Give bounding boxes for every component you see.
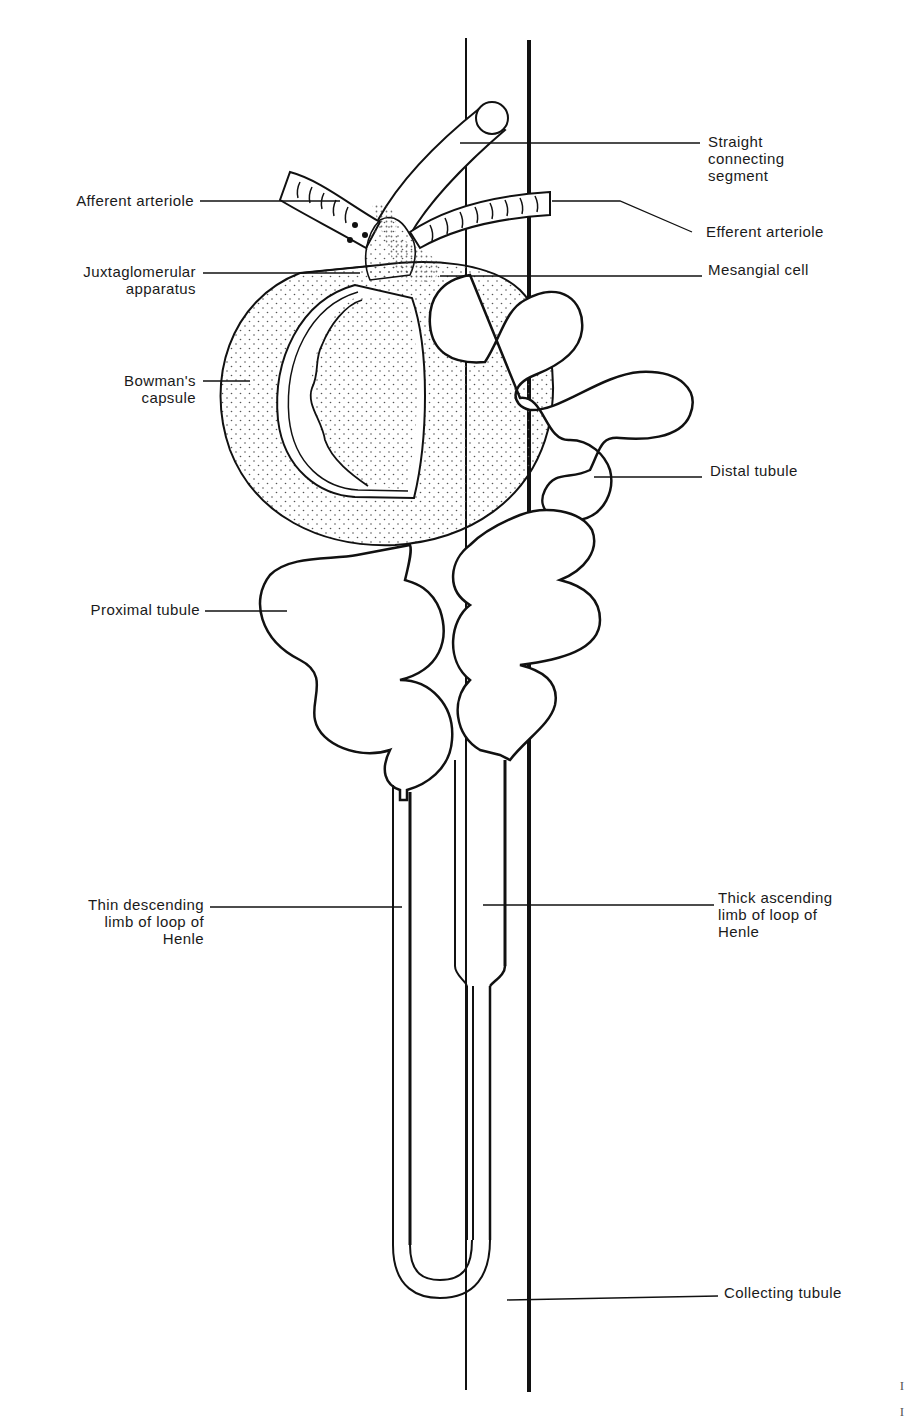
- label-thin-descending-limb: Thin descending limb of loop of Henle: [40, 896, 204, 947]
- label-afferent-arteriole: Afferent arteriole: [36, 192, 194, 209]
- page-edge-mark: I: [900, 1404, 904, 1420]
- label-efferent-arteriole: Efferent arteriole: [706, 223, 824, 240]
- page-edge-mark: I: [900, 1378, 904, 1394]
- nephron-diagram: [0, 0, 906, 1424]
- label-distal-tubule: Distal tubule: [710, 462, 798, 479]
- label-mesangial-cell: Mesangial cell: [708, 261, 809, 278]
- proximal-tubule: [260, 545, 452, 800]
- label-juxtaglomerular-apparatus: Juxtaglomerular apparatus: [20, 263, 196, 297]
- bowmans-capsule: [221, 262, 553, 545]
- label-straight-connecting-segment: Straight connecting segment: [708, 133, 785, 184]
- label-bowmans-capsule: Bowman's capsule: [60, 372, 196, 406]
- label-thick-ascending-limb: Thick ascending limb of loop of Henle: [718, 889, 832, 940]
- label-proximal-tubule: Proximal tubule: [40, 601, 200, 618]
- label-collecting-tubule: Collecting tubule: [724, 1284, 842, 1301]
- ascending-tubule-convolutions: [453, 510, 600, 760]
- afferent-arteriole: [280, 172, 380, 248]
- loop-of-henle: [393, 760, 505, 1298]
